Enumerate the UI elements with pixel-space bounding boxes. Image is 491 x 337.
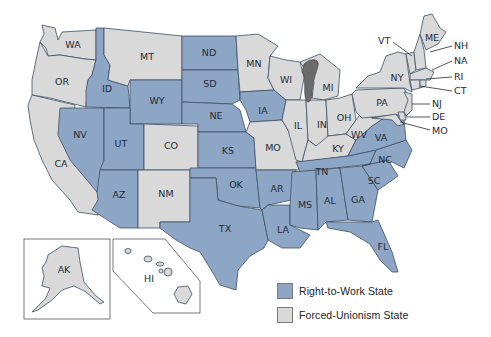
label-pa: PA — [376, 97, 388, 108]
label-ri: RI — [454, 71, 463, 82]
state-ny[interactable] — [356, 52, 412, 92]
label-id: ID — [102, 83, 112, 94]
label-nd: ND — [202, 47, 216, 58]
label-wy: WY — [149, 95, 164, 106]
label-nc: NC — [378, 154, 392, 165]
label-sc: SC — [368, 175, 381, 186]
label-de: DE — [432, 111, 445, 122]
swatch-forced-unionism — [277, 307, 293, 323]
label-tn: TN — [315, 166, 329, 177]
label-ms: MS — [298, 199, 312, 210]
legend: Right-to-Work State Forced-Unionism Stat… — [277, 281, 408, 329]
label-va: VA — [375, 132, 388, 143]
label-or: OR — [55, 76, 69, 87]
label-ny: NY — [391, 72, 404, 83]
us-map: WA OR CA ID NV MT WY UT AZ CO NM ND SD N… — [0, 0, 491, 337]
state-ct[interactable] — [410, 80, 420, 90]
label-ok: OK — [229, 179, 243, 190]
leader-ma — [432, 61, 452, 70]
leader-nh — [430, 46, 452, 52]
label-ga: GA — [351, 194, 365, 205]
label-fl: FL — [378, 241, 389, 252]
label-wv: WV — [351, 129, 367, 140]
label-sd: SD — [203, 78, 216, 89]
legend-label-forced-unionism: Forced-Unionism State — [299, 309, 408, 321]
label-ky: KY — [332, 143, 344, 154]
label-oh: OH — [337, 112, 352, 123]
legend-item-right-to-work: Right-to-Work State — [277, 281, 408, 301]
swatch-right-to-work — [277, 283, 293, 299]
label-la: LA — [277, 224, 290, 235]
label-az: AZ — [112, 189, 125, 200]
label-mt: MT — [140, 51, 154, 62]
label-na: NA — [454, 55, 468, 66]
label-nh: NH — [454, 40, 468, 51]
label-ar: AR — [270, 183, 283, 194]
label-nj: NJ — [432, 98, 442, 109]
label-me: ME — [425, 32, 439, 43]
label-nv: NV — [73, 129, 87, 140]
legend-item-forced-unionism: Forced-Unionism State — [277, 305, 408, 325]
label-ca: CA — [54, 158, 68, 169]
label-ia: IA — [258, 105, 268, 116]
label-hi: HI — [144, 273, 154, 284]
label-ne: NE — [209, 110, 222, 121]
label-ct: CT — [454, 85, 467, 96]
legend-label-right-to-work: Right-to-Work State — [299, 285, 393, 297]
label-in: IN — [317, 119, 327, 130]
label-ak: AK — [58, 264, 71, 275]
label-mn: MN — [246, 58, 261, 69]
label-wi: WI — [280, 74, 292, 85]
label-wa: WA — [65, 39, 81, 50]
label-vt: VT — [378, 35, 390, 46]
label-ut: UT — [115, 138, 128, 149]
label-al: AL — [324, 195, 336, 206]
label-mo-east: MO — [432, 125, 448, 136]
state-nm[interactable] — [138, 170, 190, 228]
label-mo: MO — [265, 142, 281, 153]
leader-ct — [420, 86, 452, 91]
label-tx: TX — [218, 223, 232, 234]
label-mi: MI — [323, 82, 334, 93]
label-il: IL — [294, 120, 303, 131]
label-nm: NM — [158, 188, 173, 199]
label-co: CO — [164, 140, 178, 151]
label-ks: KS — [222, 145, 234, 156]
